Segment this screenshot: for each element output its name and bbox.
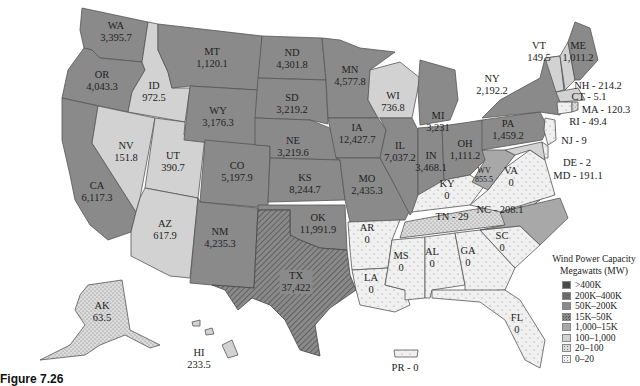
- legend-item: 50K–200K: [548, 301, 640, 312]
- state-RI: [572, 102, 578, 112]
- label-IL: IL7,037.2: [384, 140, 416, 164]
- legend-item: >400K: [548, 280, 640, 291]
- state-FL: [432, 290, 545, 368]
- label-NJ: NJ - 9: [561, 135, 587, 147]
- legend-swatch: [562, 281, 571, 289]
- label-MS: MS0: [393, 250, 408, 274]
- label-OK: OK11,991.9: [300, 212, 336, 236]
- label-PA: PA1,459.2: [492, 118, 524, 142]
- label-TN: TN - 29: [435, 211, 468, 223]
- label-CT: CT - 5.1: [571, 91, 606, 103]
- legend: Wind Power Capacity Megawatts (MW) >400K…: [548, 253, 640, 364]
- label-CA: CA6,117.3: [81, 180, 112, 204]
- label-AR: AR0: [360, 222, 375, 246]
- legend-swatch: [562, 292, 571, 300]
- label-AK: AK63.5: [93, 300, 111, 324]
- label-MN: MN4,577.8: [334, 64, 366, 88]
- label-GA: GA0: [460, 245, 475, 269]
- legend-label: 20–100: [575, 343, 604, 353]
- label-NM: NM4,235.3: [204, 226, 236, 250]
- figure-caption: Figure 7.26: [0, 372, 63, 386]
- label-WY: WY3,176.3: [202, 105, 234, 129]
- legend-item: 15K–50K: [548, 312, 640, 323]
- legend-swatch: [562, 313, 571, 321]
- legend-label: 0–20: [575, 354, 594, 364]
- label-MI: MI3,231: [426, 110, 450, 134]
- state-CT: [557, 102, 572, 114]
- legend-label: >400K: [575, 280, 601, 290]
- label-VT: VT149.5: [527, 40, 551, 64]
- label-FL: FL0: [511, 312, 523, 336]
- label-IA: IA12,427.7: [339, 122, 376, 146]
- label-UT: UT390.7: [161, 150, 185, 174]
- legend-swatch: [562, 355, 571, 363]
- legend-label: 15K–50K: [575, 312, 612, 322]
- label-OR: OR4,043.3: [86, 69, 118, 93]
- legend-item: 200K–400K: [548, 291, 640, 302]
- label-ID: ID972.5: [142, 80, 166, 104]
- label-RI: RI - 49.4: [569, 116, 607, 128]
- legend-swatch: [562, 334, 571, 342]
- legend-label: 200K–400K: [575, 291, 622, 301]
- label-PR: PR - 0: [392, 362, 419, 374]
- label-OH: OH1,111.2: [450, 138, 481, 162]
- label-WA: WA3,395.7: [100, 20, 132, 44]
- legend-title: Wind Power Capacity Megawatts (MW): [548, 253, 640, 277]
- label-AZ: AZ617.9: [153, 218, 177, 242]
- label-CO: CO5,197.9: [221, 160, 253, 184]
- label-ME: ME1,011.2: [562, 40, 593, 64]
- legend-label: 1,000–15K: [575, 322, 618, 332]
- legend-item: 20–100: [548, 343, 640, 354]
- legend-item: 100–1,000: [548, 333, 640, 344]
- legend-swatch: [562, 302, 571, 310]
- label-VA: VA0: [504, 165, 518, 189]
- territory-PR: [394, 350, 418, 357]
- label-NY: NY2,192.2: [476, 73, 508, 97]
- label-MA: MA - 120.3: [582, 104, 631, 116]
- label-DE: DE - 2: [563, 157, 591, 169]
- label-KY: KY0: [439, 178, 454, 202]
- label-SC: SC0: [496, 230, 509, 254]
- label-WV: WV855.5: [475, 166, 493, 184]
- label-NE: NE3,219.6: [277, 135, 309, 159]
- label-MD: MD - 191.1: [553, 170, 602, 182]
- legend-swatch: [562, 344, 571, 352]
- label-KS: KS8,244.7: [289, 172, 321, 196]
- legend-label: 100–1,000: [575, 333, 615, 343]
- label-LA: LA0: [364, 272, 378, 296]
- state-NJ: [544, 118, 556, 145]
- label-ND: ND4,301.8: [276, 47, 308, 71]
- label-NC: NC - 208.1: [477, 204, 524, 216]
- legend-label: 50K–200K: [575, 301, 617, 311]
- label-SD: SD3,219.2: [276, 92, 308, 116]
- legend-item: 0–20: [548, 354, 640, 365]
- label-WI: WI736.8: [381, 90, 405, 114]
- label-HI: HI233.5: [187, 347, 211, 371]
- label-MT: MT1,120.1: [196, 46, 228, 70]
- label-AL: AL0: [425, 246, 439, 270]
- legend-swatch: [562, 323, 571, 331]
- label-IN: IN3,468.1: [415, 150, 447, 174]
- label-TX: TX37,422: [280, 270, 313, 294]
- legend-item: 1,000–15K: [548, 322, 640, 333]
- label-NV: NV151.8: [114, 140, 138, 164]
- label-MO: MO2,435.3: [351, 173, 383, 197]
